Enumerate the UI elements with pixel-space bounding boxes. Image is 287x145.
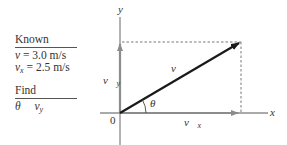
x-axis-label: x [270,106,275,118]
y-axis-label: y [118,3,123,15]
vector-diagram [0,0,287,145]
theta-arc [142,100,146,113]
vx-vector-label: v⃗x [184,116,201,130]
origin-label: 0 [110,114,116,126]
vy-vector-label: v⃗y [103,74,120,88]
theta-label: θ [150,97,155,109]
v-arrow [120,43,239,113]
v-vector-label: v⃗ [171,62,184,74]
